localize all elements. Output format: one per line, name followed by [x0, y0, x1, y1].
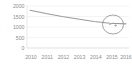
y-tick-label-1500: 1500 [13, 14, 25, 20]
y-tick-label-500: 500 [16, 35, 25, 41]
line-chart: 2000 1500 1000 500 0 2010 2011 2012 2013… [0, 0, 132, 66]
x-tick-labels: 2010 2011 2012 2013 2014 2015 2016 [25, 54, 132, 60]
chart-canvas: 2000 1500 1000 500 0 2010 2011 2012 2013… [0, 0, 132, 66]
x-tick-label-2012: 2012 [58, 54, 70, 60]
annotation-ellipse-icon [103, 15, 124, 34]
y-tick-label-0: 0 [22, 45, 25, 51]
x-tick-label-2010: 2010 [25, 54, 37, 60]
x-tick-label-2011: 2011 [42, 54, 53, 60]
series-line-0 [30, 10, 126, 24]
x-tick-label-2014: 2014 [90, 54, 102, 60]
annotation-dot-icon [115, 25, 116, 26]
x-tick-label-2013: 2013 [74, 54, 86, 60]
y-tick-label-2000: 2000 [13, 3, 25, 9]
annotation-circle [103, 15, 124, 34]
y-tick-labels: 2000 1500 1000 500 0 [13, 3, 25, 51]
x-tick-label-2016: 2016 [120, 54, 132, 60]
y-tick-label-1000: 1000 [13, 24, 25, 30]
x-tick-label-2015: 2015 [106, 54, 118, 60]
